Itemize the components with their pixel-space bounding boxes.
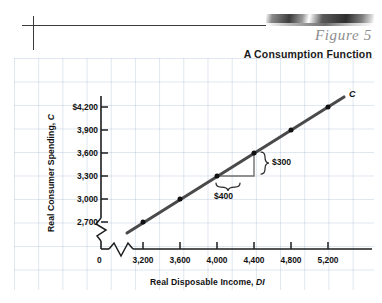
y-tick-label: 3,600: [56, 148, 98, 158]
data-point: [289, 128, 294, 133]
y-tick-label: 2,700: [56, 217, 98, 227]
y-tick-label: 3,900: [56, 125, 98, 135]
x-axis-title-symbol: DI: [256, 277, 265, 287]
x-tick-label: 3,200: [123, 255, 163, 265]
run-brace-left: [216, 183, 240, 191]
x-tick-label: 3,600: [160, 255, 200, 265]
y-axis-title-text: Real Consumer Spending,: [46, 123, 56, 232]
run-annotation-label: $400: [214, 191, 233, 201]
x-tick-label: 4,000: [197, 255, 237, 265]
y-axis-title: Real Consumer Spending, C: [46, 114, 56, 232]
y-tick-label: $4,200: [56, 102, 98, 112]
y-tick-label: 3,000: [56, 194, 98, 204]
x-tick-label: 4,400: [234, 255, 274, 265]
consumption-function-line: [127, 97, 344, 233]
figure-page: Figure 5 A Consumption Function: [0, 0, 382, 303]
x-axis-title: Real Disposable Income, DI: [150, 277, 265, 287]
rise-brace-icon: [261, 152, 269, 174]
data-point: [252, 151, 257, 156]
data-point: [215, 174, 220, 179]
x-tick-label: 5,200: [308, 255, 348, 265]
y-axis-title-symbol: C: [46, 114, 56, 120]
origin-label: 0: [97, 255, 102, 265]
data-point: [141, 220, 146, 225]
data-point: [178, 197, 183, 202]
data-point: [326, 105, 331, 110]
x-tick-label: 4,800: [271, 255, 311, 265]
rise-annotation-label: $300: [272, 157, 291, 167]
curve-label-c: C: [349, 89, 356, 99]
x-axis-title-text: Real Disposable Income,: [150, 277, 254, 287]
chart-plot-area: $4,200 3,900 3,600 3,300 3,000 2,700 0 3…: [0, 0, 382, 303]
y-tick-label: 3,300: [56, 171, 98, 181]
